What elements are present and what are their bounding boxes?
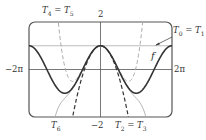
label-t4-t5: T4 = T5 <box>42 6 74 17</box>
y-tick-top: 2 <box>98 10 103 19</box>
label-t6: T6 <box>51 121 61 132</box>
label-equals: = <box>183 25 196 35</box>
label-t0-t1: T0 = T1 <box>173 26 205 37</box>
label-t6-sub: 6 <box>57 125 61 132</box>
arrowhead-icon <box>155 43 160 46</box>
x-tick-left: −2π <box>5 65 23 74</box>
label-f: f <box>151 51 155 61</box>
x-tick-right: 2π <box>174 65 185 74</box>
label-equals: = <box>52 5 65 15</box>
label-equals: = <box>125 120 138 130</box>
label-t2-t3: T2 = T3 <box>115 121 147 132</box>
label-t1-sub: 1 <box>201 30 205 37</box>
label-t3-sub: 3 <box>143 125 147 132</box>
label-t5-sub: 5 <box>70 10 74 17</box>
y-tick-bottom: −2 <box>91 121 104 130</box>
